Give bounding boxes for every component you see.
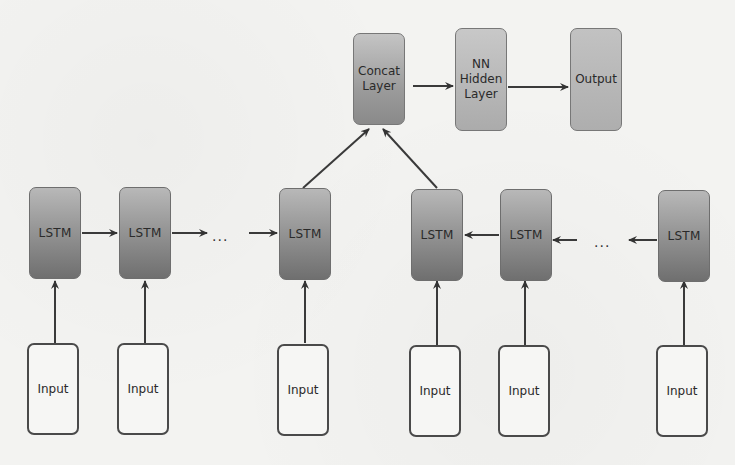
hidden-label-line3: Layer [460, 87, 503, 102]
diagram-canvas: ConcatLayer NNHiddenLayer Output LSTM LS… [0, 0, 735, 465]
lstm-label: LSTM [509, 228, 542, 242]
concat-label-line1: Concat [358, 64, 400, 79]
hidden-label-line1: NN [460, 57, 503, 72]
lstm-forward-3: LSTM [279, 188, 331, 280]
input-node-1: Input [27, 343, 79, 435]
concat-label-line2: Layer [358, 79, 400, 94]
input-node-4: Input [409, 345, 461, 437]
input-node-5: Input [498, 345, 550, 437]
lstm-backward-6: LSTM [658, 190, 710, 282]
nn-hidden-layer-node: NNHiddenLayer [455, 28, 507, 131]
input-node-3: Input [277, 344, 329, 436]
lstm-label: LSTM [288, 227, 321, 241]
lstm-label: LSTM [128, 226, 161, 240]
lstm-label: LSTM [38, 226, 71, 240]
edge-lstm3-concat [303, 129, 369, 188]
input-node-2: Input [117, 343, 169, 435]
input-label: Input [666, 384, 697, 398]
lstm-label: LSTM [667, 229, 700, 243]
lstm-backward-4: LSTM [411, 189, 463, 281]
lstm-label: LSTM [420, 228, 453, 242]
input-label: Input [287, 383, 318, 397]
concat-layer-node: ConcatLayer [353, 33, 405, 125]
forward-ellipsis: ... [212, 228, 228, 244]
lstm-forward-2: LSTM [119, 187, 171, 279]
input-label: Input [508, 384, 539, 398]
lstm-backward-5: LSTM [500, 189, 552, 281]
hidden-label-line2: Hidden [460, 72, 503, 87]
input-node-6: Input [656, 345, 708, 437]
input-label: Input [37, 382, 68, 396]
edge-lstm4-concat [383, 129, 437, 188]
input-label: Input [419, 384, 450, 398]
input-label: Input [127, 382, 158, 396]
output-label: Output [575, 72, 617, 87]
lstm-forward-1: LSTM [29, 187, 81, 279]
backward-ellipsis: ... [594, 234, 610, 250]
output-node: Output [570, 28, 622, 131]
